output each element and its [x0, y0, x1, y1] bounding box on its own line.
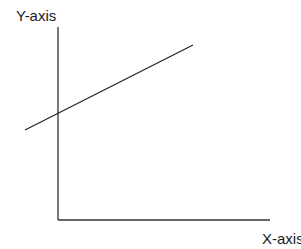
axes-canvas — [0, 0, 301, 249]
y-axis-label: Y-axis — [16, 8, 56, 23]
x-axis-label: X-axis — [262, 231, 301, 246]
coordinate-diagram: Y-axis X-axis — [0, 0, 301, 249]
linear-function-line — [25, 45, 193, 130]
